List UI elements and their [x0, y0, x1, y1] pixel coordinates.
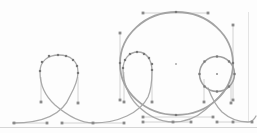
handle-end-marker[interactable] — [77, 102, 80, 105]
handle-end-marker[interactable] — [119, 99, 122, 102]
handle-end-marker[interactable] — [230, 102, 233, 105]
handle-end-marker[interactable] — [216, 121, 219, 124]
curve-node[interactable] — [76, 65, 78, 67]
handle-end-marker[interactable] — [40, 101, 43, 104]
curve-node[interactable] — [143, 53, 145, 55]
handle-end-marker[interactable] — [119, 32, 122, 35]
handle-end-marker[interactable] — [212, 116, 215, 119]
curve-node[interactable] — [228, 85, 230, 87]
curve-node[interactable] — [41, 61, 43, 63]
handle-end-marker[interactable] — [61, 122, 64, 125]
handle-end-marker[interactable] — [46, 122, 49, 125]
curve-node[interactable] — [72, 59, 74, 61]
big-circle-center-mark — [175, 63, 177, 65]
curve-editor-scene — [0, 0, 257, 133]
handle-end-marker[interactable] — [123, 101, 126, 104]
curve-node[interactable] — [175, 114, 177, 116]
handle-end-marker[interactable] — [232, 24, 235, 27]
vector-canvas — [0, 0, 257, 133]
curve-node[interactable] — [136, 51, 138, 53]
curve-node[interactable] — [151, 63, 153, 65]
curve-node[interactable] — [228, 60, 230, 62]
curve-node[interactable] — [198, 73, 200, 75]
small-circle-center-mark — [216, 73, 218, 75]
handle-end-marker[interactable] — [232, 99, 235, 102]
curve-node[interactable] — [232, 62, 234, 64]
curve-node[interactable] — [216, 55, 218, 57]
curve-node[interactable] — [65, 55, 67, 57]
curve-node[interactable] — [57, 54, 59, 56]
handle-end-marker[interactable] — [92, 122, 95, 125]
curve-node[interactable] — [148, 57, 150, 59]
handle-end-marker[interactable] — [190, 121, 193, 124]
handle-end-marker[interactable] — [13, 122, 16, 125]
curve-node[interactable] — [175, 11, 177, 13]
curve-node[interactable] — [39, 70, 41, 72]
handle-end-marker[interactable] — [232, 121, 235, 124]
curve-node[interactable] — [48, 55, 50, 57]
handle-end-marker[interactable] — [142, 12, 145, 15]
curve-node[interactable] — [203, 60, 205, 62]
curve-node[interactable] — [216, 90, 218, 92]
handle-end-marker[interactable] — [251, 121, 254, 124]
handle-end-marker[interactable] — [172, 121, 175, 124]
curve-node[interactable] — [151, 69, 153, 71]
curve-node[interactable] — [77, 72, 79, 74]
handle-end-marker[interactable] — [123, 122, 126, 125]
curve-node[interactable] — [122, 67, 124, 69]
handle-end-marker[interactable] — [142, 121, 145, 124]
curve-node[interactable] — [233, 73, 235, 75]
handle-end-marker[interactable] — [203, 101, 206, 104]
handle-end-marker[interactable] — [207, 12, 210, 15]
spline-curve[interactable] — [13, 52, 256, 123]
curve-node[interactable] — [124, 59, 126, 61]
curve-node[interactable] — [203, 85, 205, 87]
curve-node[interactable] — [119, 62, 121, 64]
handle-end-marker[interactable] — [151, 101, 154, 104]
handle-end-marker[interactable] — [142, 116, 145, 119]
curve-node[interactable] — [129, 53, 131, 55]
